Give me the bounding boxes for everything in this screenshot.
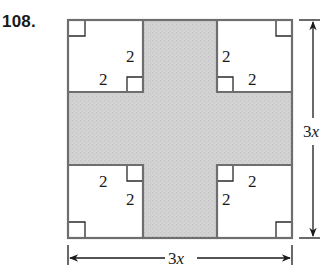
height-label: 3x	[303, 122, 320, 141]
width-label: 3x	[168, 249, 185, 268]
label-bl-vertical: 2	[126, 190, 135, 209]
label-br-vertical: 2	[222, 190, 231, 209]
cross-figure: 2 2 2 2 2 2 2 2 3x 3x	[0, 0, 335, 276]
label-tr-vertical: 2	[222, 47, 231, 66]
label-tr-horizontal: 2	[248, 70, 257, 89]
label-tl-horizontal: 2	[99, 70, 108, 89]
label-br-horizontal: 2	[248, 172, 257, 191]
label-tl-vertical: 2	[126, 47, 135, 66]
label-bl-horizontal: 2	[99, 172, 108, 191]
